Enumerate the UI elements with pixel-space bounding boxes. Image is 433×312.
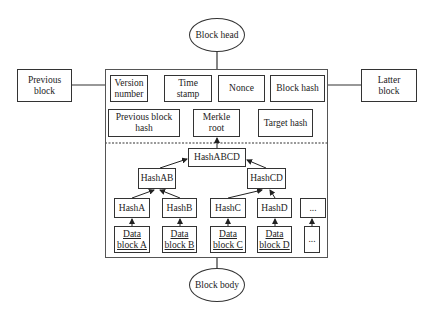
previous-block-node: Previous block bbox=[17, 69, 72, 102]
block-hash-field: Block hash bbox=[270, 75, 325, 102]
data-block-d: Data block D bbox=[257, 226, 292, 253]
hash-cd-node: HashCD bbox=[247, 168, 286, 189]
hash-ab-node: HashAB bbox=[138, 168, 176, 189]
data-block-b: Data block B bbox=[162, 226, 197, 253]
hash-b-node: HashB bbox=[162, 198, 197, 218]
hash-more-node: ... bbox=[300, 198, 326, 218]
block-head-node: Block head bbox=[189, 18, 245, 52]
data-block-c: Data block C bbox=[210, 226, 246, 253]
hash-abcd-node: HashABCD bbox=[188, 148, 246, 167]
block-head-label: Block head bbox=[195, 30, 238, 40]
merkle-root-field: Merkle root bbox=[193, 109, 240, 137]
hash-c-node: HashC bbox=[210, 198, 246, 218]
block-body-node: Block body bbox=[189, 268, 245, 302]
target-hash-field: Target hash bbox=[258, 109, 313, 137]
data-block-a: Data block A bbox=[114, 226, 150, 253]
latter-block-node: Latter block bbox=[361, 69, 417, 102]
data-block-more: ... bbox=[304, 226, 320, 253]
hash-d-node: HashD bbox=[257, 198, 292, 218]
previous-block-hash-field: Previous block hash bbox=[108, 109, 180, 137]
nonce-field: Nonce bbox=[218, 75, 265, 102]
block-body-label: Block body bbox=[195, 280, 239, 290]
version-number-field: Version number bbox=[110, 75, 148, 102]
timestamp-field: Time stamp bbox=[164, 75, 212, 102]
hash-a-node: HashA bbox=[114, 198, 150, 218]
